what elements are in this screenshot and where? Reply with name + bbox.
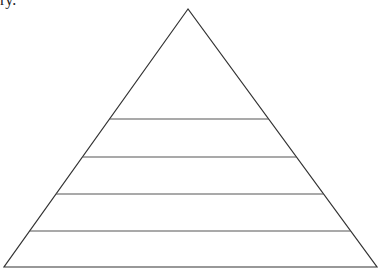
pyramid-diagram: [0, 0, 380, 273]
pyramid-level-dividers: [30, 119, 351, 231]
pyramid-outline: [4, 9, 377, 267]
